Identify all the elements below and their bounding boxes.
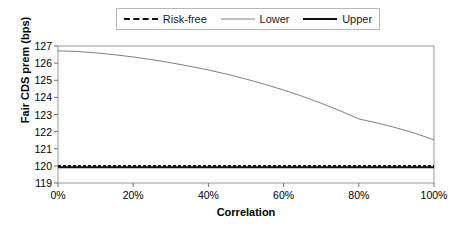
cds-premium-chart: Risk-free Lower Upper Fair CDS prem (bps… [0, 0, 454, 230]
x-axis-tick-labels: 0%20%40%60%80%100% [0, 190, 454, 206]
x-axis-tick-label: 100% [421, 190, 448, 201]
x-axis-tick-label: 20% [123, 190, 144, 201]
x-axis-tick-label: 40% [198, 190, 219, 201]
x-axis-title: Correlation [58, 206, 434, 218]
x-axis-tick-label: 0% [50, 190, 65, 201]
x-axis-tick-label: 80% [348, 190, 369, 201]
plot-frame [58, 46, 434, 183]
x-axis-tick-label: 60% [273, 190, 294, 201]
